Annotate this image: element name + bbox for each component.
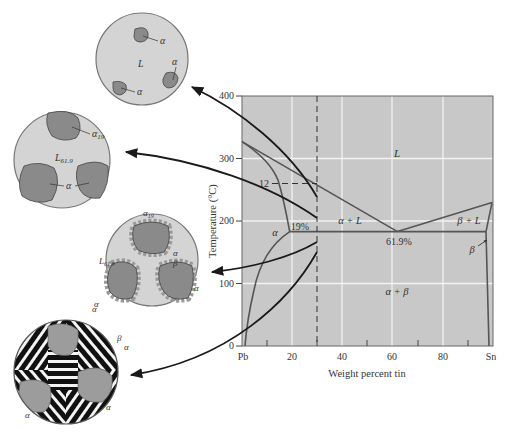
micro4-alpha-label: α (92, 304, 97, 314)
alpha-grain (19, 163, 57, 202)
alpha-grain (133, 222, 170, 254)
microstructure-room-temperature: α β α α α (10, 304, 129, 426)
alpha-grain (134, 28, 148, 42)
y-axis-label: Temperature (°C) (207, 184, 219, 258)
micro4-alpha-label: α (25, 410, 30, 420)
microstructure-above-eutectic: α19 L61.9 α (14, 111, 110, 208)
x-tick-40: 40 (337, 351, 347, 362)
label-alpha-plus-liquid: α + L (338, 215, 362, 226)
micro4-beta-label: β (116, 333, 122, 343)
y-tick-100: 100 (219, 278, 234, 289)
label-alpha-plus-beta: α + β (385, 286, 409, 297)
alpha-grain (113, 81, 126, 95)
micro1-alpha-label: α (137, 86, 143, 97)
micro1-liquid-label: L (137, 58, 144, 69)
alpha-grain (18, 380, 51, 413)
microstructure-at-eutectic: α19 α β L61.9 α α (94, 208, 199, 309)
x-axis-label: Weight percent tin (328, 368, 406, 379)
micro4-alpha-label: α (124, 342, 129, 352)
micro1-alpha-label: α (160, 35, 166, 46)
x-tick-sn: Sn (486, 351, 497, 362)
label-liquid: L (393, 147, 400, 159)
label-19-percent: 19% (291, 221, 309, 232)
micro1-alpha-label: α (172, 56, 178, 67)
micro4-alpha-label: α (106, 402, 111, 412)
phase-diagram-figure: 0 100 200 300 400 Pb 20 40 60 80 Sn Weig… (0, 0, 506, 433)
micro2-alpha-label: α (66, 180, 72, 191)
alpha-grain (47, 111, 80, 140)
y-tick-400: 400 (219, 90, 234, 101)
label-alpha: α (272, 227, 278, 238)
micro3-alpha-label: α (173, 248, 178, 258)
y-tick-300: 300 (219, 153, 234, 164)
x-tick-pb: Pb (238, 351, 249, 362)
label-beta-plus-liquid: β + L (456, 215, 481, 226)
x-tick-20: 20 (287, 351, 297, 362)
micro3-beta-label: β (172, 258, 178, 268)
alpha-grain (107, 262, 137, 299)
label-beta: β (468, 244, 475, 255)
alpha-grain (48, 324, 78, 356)
y-tick-0: 0 (229, 340, 234, 351)
label-61-9-percent: 61.9% (386, 236, 412, 247)
x-tick-60: 60 (387, 351, 397, 362)
micro3-alpha19-label: α19 (143, 208, 154, 219)
alpha-grain (78, 368, 112, 402)
x-tick-80: 80 (438, 351, 448, 362)
y-tick-200: 200 (219, 215, 234, 226)
phase-diagram-plot: 0 100 200 300 400 Pb 20 40 60 80 Sn Weig… (207, 90, 496, 379)
micro3-alpha-label: α (194, 283, 199, 293)
microstructure-liquid: α α α L (96, 13, 188, 105)
